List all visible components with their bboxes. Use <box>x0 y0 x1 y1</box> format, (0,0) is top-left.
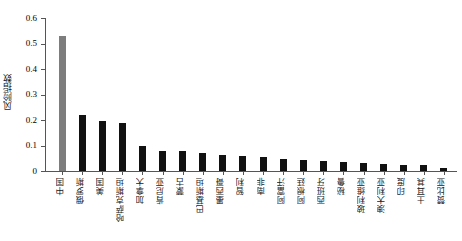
x-axis-category-label: 土耳其 <box>418 177 429 204</box>
bar <box>159 151 166 171</box>
y-axis-tick <box>41 18 45 19</box>
bar-slot <box>374 18 394 171</box>
bar <box>260 157 267 171</box>
bar <box>119 123 126 171</box>
x-axis-tick <box>283 172 284 175</box>
y-axis-tick <box>41 44 45 45</box>
bar <box>360 163 367 171</box>
bar-slot <box>193 18 213 171</box>
x-axis-tick <box>323 172 324 175</box>
bar-slot <box>213 18 233 171</box>
x-axis-tick <box>223 172 224 175</box>
y-axis-tick <box>41 146 45 147</box>
bar-slot <box>273 18 293 171</box>
bar-slot <box>92 18 112 171</box>
bar <box>440 168 447 171</box>
bar <box>199 153 206 171</box>
x-axis-tick <box>62 172 63 175</box>
bar-slot <box>52 18 72 171</box>
bar <box>380 164 387 171</box>
bar-slot <box>173 18 193 171</box>
y-axis-tick-label: 0.2 <box>26 116 37 125</box>
y-axis-tick <box>41 120 45 121</box>
x-axis-category-label: 哈萨克斯坦 <box>117 177 128 222</box>
x-axis-category-label: 美国 <box>97 177 108 195</box>
x-axis-tick <box>163 172 164 175</box>
x-axis-tick <box>183 172 184 175</box>
x-axis-category-label: 蒙古 <box>177 177 188 195</box>
bar-slot <box>112 18 132 171</box>
x-axis-category-label: 中国 <box>57 177 68 195</box>
x-axis-tick <box>404 172 405 175</box>
bar <box>239 156 246 171</box>
bar <box>79 115 86 171</box>
x-axis-category-label: 阿富汗 <box>278 177 289 204</box>
x-axis-tick <box>343 172 344 175</box>
bar-slot <box>253 18 273 171</box>
bar <box>420 165 427 171</box>
bar-slot <box>333 18 353 171</box>
bar <box>320 161 327 171</box>
y-axis-tick-label: 0.3 <box>26 90 37 99</box>
x-axis-tick <box>203 172 204 175</box>
x-axis-category-label: 玻利维亚 <box>358 177 369 213</box>
x-axis-tick <box>424 172 425 175</box>
x-axis-tick <box>142 172 143 175</box>
bar-slot <box>153 18 173 171</box>
bar <box>280 159 287 171</box>
bar-series <box>46 18 457 171</box>
bar <box>99 121 106 171</box>
bar-slot <box>414 18 434 171</box>
x-axis-category-label: 肯尼亚 <box>157 177 168 204</box>
plot-area <box>45 18 457 172</box>
x-axis-category-label: 阿根廷 <box>298 177 309 204</box>
x-axis-category-label: 西班牙 <box>318 177 329 204</box>
bar <box>219 155 226 171</box>
bar-slot <box>233 18 253 171</box>
x-axis-tick <box>82 172 83 175</box>
bar <box>59 36 66 171</box>
y-axis-tick <box>41 95 45 96</box>
x-axis-category-label: 加拿大 <box>137 177 148 204</box>
x-axis-category-label: 俄罗斯 <box>77 177 88 204</box>
bar <box>400 165 407 171</box>
x-axis-category-label: 南非 <box>258 177 269 195</box>
bar-chart: 风险指数 00.10.20.30.40.50.6 中国俄罗斯美国哈萨克斯坦加拿大… <box>0 0 462 241</box>
y-axis-tick-label: 0.4 <box>26 65 37 74</box>
x-axis-category-label: 巴基斯坦 <box>197 177 208 213</box>
x-axis-tick <box>102 172 103 175</box>
bar <box>139 146 146 172</box>
x-axis-tick <box>364 172 365 175</box>
y-axis-tick-labels: 00.10.20.30.40.50.6 <box>14 0 38 241</box>
x-axis-tick <box>384 172 385 175</box>
bar-slot <box>293 18 313 171</box>
y-axis-tick-label: 0 <box>33 167 38 176</box>
x-axis-tick <box>263 172 264 175</box>
bar <box>179 151 186 171</box>
y-axis-tick-label: 0.5 <box>26 39 37 48</box>
x-axis-category-label: 秘鲁 <box>338 177 349 195</box>
x-axis-category-label: 赞比亚 <box>438 177 449 204</box>
x-axis-category-label: 智利 <box>237 177 248 195</box>
x-axis-category-label: 印度 <box>398 177 409 195</box>
x-axis-tick <box>122 172 123 175</box>
bar-slot <box>132 18 152 171</box>
y-axis-tick-label: 0.1 <box>26 141 37 150</box>
x-axis-tick <box>303 172 304 175</box>
x-axis-category-label: 澳大利亚 <box>378 177 389 213</box>
bar-slot <box>394 18 414 171</box>
bar-slot <box>354 18 374 171</box>
x-axis-category-label: 墨西哥 <box>217 177 228 204</box>
y-axis-tick-label: 0.6 <box>26 14 37 23</box>
bar-slot <box>72 18 92 171</box>
bar <box>340 162 347 171</box>
bar <box>300 160 307 171</box>
x-axis-category-labels: 中国俄罗斯美国哈萨克斯坦加拿大肯尼亚蒙古巴基斯坦墨西哥智利南非阿富汗阿根廷西班牙… <box>45 177 457 239</box>
x-axis-tick <box>444 172 445 175</box>
bar-slot <box>434 18 454 171</box>
x-axis-ticks <box>45 172 457 176</box>
y-axis-tick <box>41 69 45 70</box>
x-axis-tick <box>243 172 244 175</box>
bar-slot <box>313 18 333 171</box>
